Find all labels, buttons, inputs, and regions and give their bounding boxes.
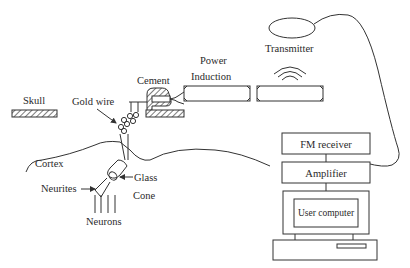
transmitter-label: Transmitter — [265, 43, 314, 54]
gold-wire-label: Gold wire — [72, 96, 115, 107]
induction-label: Induction — [191, 71, 232, 82]
power-label: Power — [200, 55, 227, 66]
diagram-canvas: Skull Gold wire Cement Power Induction — [0, 0, 410, 268]
user-computer-label: User computer — [298, 208, 355, 218]
power-induction-coil — [184, 86, 250, 101]
gold-wire-coils — [118, 102, 148, 160]
glass-label: Glass — [134, 172, 157, 183]
disk-drive-slot — [337, 244, 366, 248]
radio-waves-icon — [274, 67, 306, 80]
cement-label: Cement — [137, 75, 170, 86]
antenna-loop — [269, 18, 315, 38]
glass-cone-electrode — [95, 160, 127, 197]
skull-label: Skull — [23, 95, 45, 106]
cement-mound — [146, 88, 184, 117]
gold-wire-arrow — [97, 109, 116, 123]
computer-base — [273, 240, 377, 260]
transmitter-box — [257, 86, 323, 101]
fm-receiver-label: FM receiver — [300, 139, 352, 150]
skull-piece — [12, 110, 57, 117]
neuron-lines — [95, 195, 115, 213]
cortex-label: Cortex — [35, 158, 64, 169]
neurites-label: Neurites — [41, 183, 77, 194]
cone-label: Cone — [133, 190, 156, 201]
neurons-label: Neurons — [86, 216, 122, 227]
amplifier-label: Amplifier — [305, 168, 347, 179]
